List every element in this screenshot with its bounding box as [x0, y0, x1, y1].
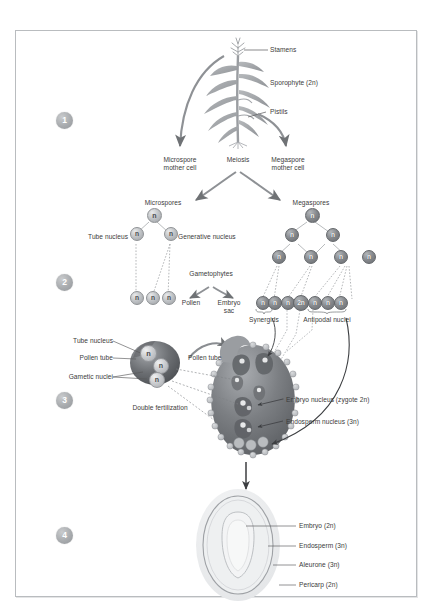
step-badge-1: 1 — [56, 112, 73, 129]
label-microspore-mother-cell: Microspore mother cell — [163, 156, 196, 173]
microspore-nucleus-tube: n — [130, 227, 144, 241]
megaspore-nucleus-l3-2: n — [304, 250, 318, 264]
step-badge-4: 4 — [56, 527, 73, 544]
label-gametic-nuclei: Gametic nuclei — [69, 373, 113, 381]
antipodal-nucleus-2: n — [321, 296, 335, 310]
label-meiosis: Meiosis — [227, 156, 250, 164]
maize-plant-illustration — [204, 38, 270, 149]
label-pollen-tube-right: Pollen tube — [188, 354, 222, 362]
label-gametophytes: Gametophytes — [189, 270, 232, 278]
label-megaspore-mother-cell: Megaspore mother cell — [271, 156, 304, 173]
label-embryo: Embryo (2n) — [299, 522, 336, 530]
gametophyte-split-arrows — [190, 287, 233, 298]
pollen-nucleus-2: n — [146, 291, 160, 305]
label-embryo-sac: Embryo sac — [217, 299, 240, 316]
step-badge-3: 3 — [56, 392, 73, 409]
label-synergids: Synergids — [249, 316, 279, 324]
label-microspores: Microspores — [145, 199, 181, 207]
label-pericarp: Pericarp (2n) — [299, 581, 338, 589]
antipodal-nucleus-1: n — [308, 296, 322, 310]
microspore-nucleus-generative: n — [164, 227, 178, 241]
label-aleurone: Aleurone (3n) — [299, 561, 340, 569]
synergid-nucleus-2: n — [268, 296, 282, 310]
label-tube-nucleus-upper: Tube nucleus — [88, 233, 128, 241]
megaspore-dashed-connectors — [262, 266, 352, 299]
microspore-dashed-connectors — [136, 244, 170, 297]
meiosis-split-arrows — [196, 172, 280, 200]
label-antipodal-nuclei: Antipodal nuclei — [303, 316, 350, 324]
label-megaspores: Megaspores — [293, 199, 330, 207]
label-stamens: Stamens — [270, 46, 296, 54]
label-pistils: Pistils — [270, 108, 288, 116]
label-tube-nucleus-lower: Tube nucleus — [73, 337, 113, 345]
label-double-fertilization: Double fertilization — [132, 404, 187, 412]
label-sporophyte: Sporophyte (2n) — [270, 79, 318, 87]
megaspore-nucleus-root: n — [305, 208, 320, 223]
label-endosperm-nucleus: Endosperm nucleus (3n) — [286, 418, 359, 426]
antipodal-nucleus-3: n — [334, 296, 348, 310]
maize-kernel-illustration — [196, 489, 280, 601]
megaspore-nucleus-l2-1: n — [285, 228, 299, 242]
label-endosperm: Endosperm (3n) — [299, 542, 347, 550]
pollen-nucleus-3: n — [162, 291, 176, 305]
label-pollen-tube-left: Pollen tube — [79, 354, 113, 362]
megaspore-nucleus-l3-1: n — [272, 250, 286, 264]
megaspore-nucleus-l3-4: n — [362, 250, 376, 264]
pollen-nucleus-1: n — [130, 291, 144, 305]
megaspore-nucleus-l3-3: n — [334, 250, 348, 264]
megaspore-nucleus-l2-2: n — [326, 228, 340, 242]
microspore-nucleus-root: n — [147, 208, 162, 223]
label-pollen: Pollen — [182, 299, 201, 307]
label-embryo-nucleus: Embryo nucleus (zygote 2n) — [286, 396, 369, 404]
label-generative-nucleus: Generative nucleus — [178, 233, 236, 241]
step-badge-2: 2 — [56, 274, 73, 291]
pollen-grain-gametic-nucleus-2: n — [149, 372, 165, 388]
polar-nuclei-2n: 2n — [293, 295, 309, 311]
diagram-canvas: 1 2 3 4 Stamens Sporophyte (2n) Pistils … — [0, 0, 435, 614]
